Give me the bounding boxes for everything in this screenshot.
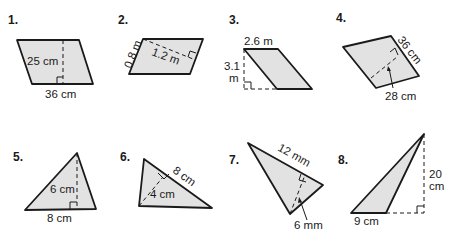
- base-label: 36 cm: [45, 88, 76, 100]
- problem-number: 3.: [229, 13, 239, 27]
- right-angle-icon: [417, 206, 424, 213]
- problem-number: 8.: [338, 153, 348, 167]
- problem-number: 7.: [229, 153, 239, 167]
- problem-number: 5.: [13, 150, 23, 164]
- problem-number: 2.: [118, 13, 128, 27]
- problem-6: 6. 8 cm 4 cm: [120, 150, 212, 208]
- base-label: 2.6 m: [244, 35, 273, 47]
- base-label: 8 cm: [47, 212, 72, 224]
- height-label-line2: cm: [429, 180, 444, 192]
- geometry-figures: 1. 25 cm 36 cm 2. 0.8 m 1.2 m 3. 2.6 m 3…: [0, 0, 457, 242]
- problem-number: 4.: [336, 11, 346, 25]
- height-label: 28 cm: [385, 90, 416, 102]
- problem-7: 7. 12 mm 6 mm: [229, 141, 323, 231]
- parallelogram-shape: [244, 49, 312, 89]
- height-label: 6 mm: [294, 219, 323, 231]
- height-label: 25 cm: [27, 55, 58, 67]
- problem-number: 1.: [8, 13, 18, 27]
- problem-3: 3. 2.6 m 3.1 m: [224, 13, 312, 89]
- height-label-line1: 20: [429, 168, 442, 180]
- height-label-line2: m: [229, 72, 239, 84]
- right-angle-icon: [244, 82, 251, 89]
- triangle-shape: [25, 153, 96, 210]
- problem-number: 6.: [120, 150, 130, 164]
- problem-2: 2. 0.8 m 1.2 m: [118, 13, 203, 74]
- height-label-line1: 3.1: [224, 60, 240, 72]
- problem-5: 5. 6 cm 8 cm: [13, 150, 96, 224]
- problem-8: 8. 20 cm 9 cm: [338, 134, 444, 227]
- triangle-shape: [351, 134, 424, 213]
- height-label: 6 cm: [50, 183, 75, 195]
- problem-4: 4. 36 cm 28 cm: [336, 11, 424, 102]
- problem-1: 1. 25 cm 36 cm: [8, 13, 93, 100]
- base-label: 9 cm: [354, 215, 379, 227]
- height-label: 4 cm: [150, 188, 175, 200]
